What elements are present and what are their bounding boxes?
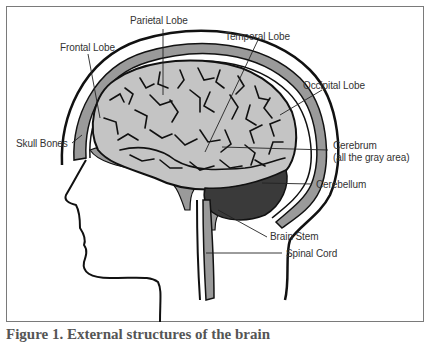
label-brain-stem: Brain Stem: [270, 231, 318, 242]
label-parietal-lobe: Parietal Lobe: [130, 15, 188, 26]
face-profile: [65, 160, 160, 322]
label-frontal-lobe: Frontal Lobe: [60, 42, 115, 53]
label-occipital-lobe: Occipital Lobe: [303, 80, 365, 91]
cerebrum: [93, 61, 296, 190]
figure-caption: Figure 1. External structures of the bra…: [6, 326, 270, 343]
label-spinal-cord: Spinal Cord: [286, 248, 337, 259]
label-cerebrum-note: (all the gray area): [333, 152, 409, 163]
label-temporal-lobe: Temporal Lobe: [225, 31, 290, 42]
label-cerebrum: Cerebrum: [333, 140, 377, 151]
label-skull-bones: Skull Bones: [16, 138, 68, 149]
label-cerebellum: Cerebellum: [316, 179, 366, 190]
